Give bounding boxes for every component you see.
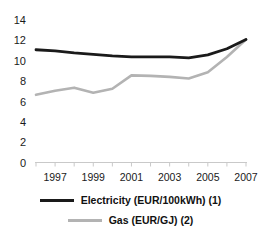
- line-chart: 14 12 10 8 6 4 2 0 1997 1999 2001 2003 2…: [0, 0, 261, 233]
- x-axis-ticks: [36, 163, 246, 167]
- chart-legend: Electricity (EUR/100kWh) (1) Gas (EUR/GJ…: [0, 190, 261, 230]
- legend-label-electricity: Electricity (EUR/100kWh) (1): [81, 194, 222, 206]
- legend-label-gas: Gas (EUR/GJ) (2): [109, 214, 194, 226]
- legend-item-electricity: Electricity (EUR/100kWh) (1): [0, 190, 261, 210]
- gas-line: [36, 40, 246, 95]
- legend-item-gas: Gas (EUR/GJ) (2): [0, 210, 261, 230]
- legend-swatch-gas-icon: [68, 219, 102, 222]
- legend-swatch-electricity-icon: [40, 199, 74, 202]
- electricity-line: [36, 40, 246, 58]
